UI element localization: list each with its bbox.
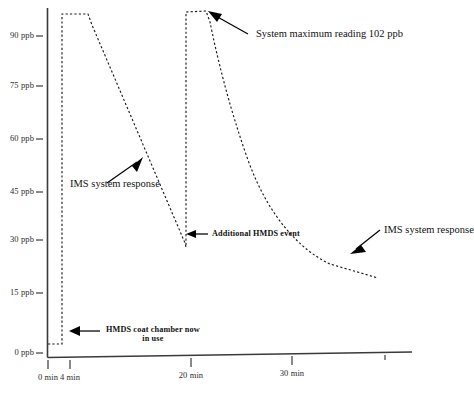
x-tick-label-30min: 30 min xyxy=(272,368,312,378)
y-tick-label-75: 75 ppb xyxy=(0,80,34,90)
y-tick-label-90: 90 ppb xyxy=(0,30,34,40)
y-tick-label-45: 45 ppb xyxy=(0,186,34,196)
x-tick-label-20min: 20 min xyxy=(171,370,211,380)
y-tick-label-60: 60 ppb xyxy=(0,133,34,143)
hmds-coat-chamber-arrow xyxy=(69,326,100,336)
annotation-system-maximum: System maximum reading 102 ppb xyxy=(256,28,403,39)
system-maximum-arrow xyxy=(208,11,248,34)
ims-response-right-arrow xyxy=(350,230,380,254)
annotation-hmds-coat-chamber-line2: in use xyxy=(106,334,200,343)
y-tick-label-30: 30 ppb xyxy=(0,234,34,244)
annotation-hmds-coat-chamber: HMDS coat chamber now in use xyxy=(106,325,200,343)
annotation-ims-response-left: IMS system response xyxy=(70,178,160,189)
annotation-hmds-coat-chamber-line1: HMDS coat chamber now xyxy=(106,325,200,334)
chart-page: 90 ppb 75 ppb 60 ppb 45 ppb 30 ppb 15 pp… xyxy=(0,0,474,400)
annotation-additional-hmds-event: Additional HMDS event xyxy=(212,229,300,238)
y-tick-label-0: 0 ppb xyxy=(0,347,34,357)
x-tick-label-4min: 4 min xyxy=(50,372,90,382)
additional-hmds-arrow xyxy=(186,230,208,238)
annotation-ims-response-right: IMS system response xyxy=(384,224,474,235)
y-tick-label-15: 15 ppb xyxy=(0,287,34,297)
y-axis-ticks xyxy=(36,36,43,353)
x-axis-line xyxy=(48,352,413,358)
chart-canvas xyxy=(0,0,474,400)
